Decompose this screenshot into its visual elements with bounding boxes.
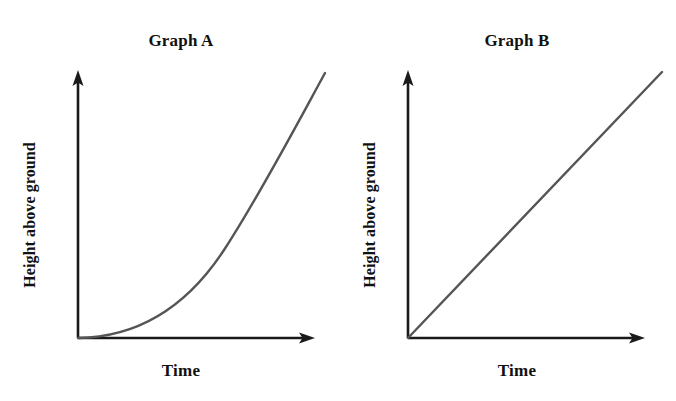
chart-panel-graph-a: Graph A Height above ground Time <box>0 0 338 401</box>
plot-area-graph-a <box>0 0 338 401</box>
data-line-graph-b <box>408 72 662 338</box>
x-axis-label-graph-b: Time <box>338 361 676 381</box>
x-axis-label-graph-a: Time <box>0 361 338 381</box>
chart-panel-graph-b: Graph B Height above ground Time <box>338 0 676 401</box>
figure-root: Graph A Height above ground Time Graph B <box>0 0 676 401</box>
data-curve-graph-a <box>78 73 325 338</box>
y-axis-label-graph-a: Height above ground <box>19 85 41 345</box>
y-axis-label-graph-b: Height above ground <box>359 85 381 345</box>
plot-area-graph-b <box>338 0 676 401</box>
